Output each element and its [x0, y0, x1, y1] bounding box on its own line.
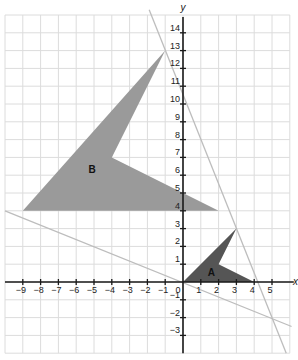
y-tick-label: 12 [170, 58, 180, 68]
y-tick-label: 2 [175, 236, 180, 246]
y-tick-label: 3 [175, 219, 180, 229]
y-tick-label: −1 [170, 290, 180, 300]
y-axis-label: y [180, 2, 187, 13]
x-tick-label: −5 [87, 285, 97, 295]
y-tick-label: 10 [170, 94, 180, 104]
y-tick-label: 8 [175, 130, 180, 140]
y-tick-label: 4 [175, 201, 180, 211]
x-tick-label: 5 [267, 285, 272, 295]
x-tick-label: −4 [105, 285, 115, 295]
shapes: BA [23, 51, 254, 282]
y-tick-label: 9 [175, 112, 180, 122]
x-tick-label: −2 [140, 285, 150, 295]
x-axis-label: x [292, 276, 298, 287]
shape-label-b: B [89, 164, 96, 175]
x-tick-label: 1 [196, 285, 201, 295]
y-tick-label: 14 [170, 23, 180, 33]
x-tick-label: −3 [122, 285, 132, 295]
x-tick-label: −8 [33, 285, 43, 295]
y-tick-label: 1 [175, 254, 180, 264]
y-tick-label: 7 [175, 147, 180, 157]
y-tick-label: 5 [175, 183, 180, 193]
x-tick-label: −9 [16, 285, 26, 295]
y-tick-label: 11 [171, 76, 180, 86]
shape-label-a: A [208, 267, 215, 278]
y-tick-label: −2 [170, 308, 180, 318]
y-tick-label: 6 [175, 165, 180, 175]
x-tick-label: −6 [69, 285, 79, 295]
x-tick-label: −7 [51, 285, 61, 295]
x-tick-label: −1 [158, 285, 168, 295]
x-tick-label: 2 [214, 285, 219, 295]
x-tick-label: 4 [250, 285, 255, 295]
x-tick-label: 3 [232, 285, 237, 295]
coordinate-plane: BA −9−8−7−6−5−4−3−2−10123451413121110987… [0, 0, 298, 360]
y-tick-label: 13 [170, 41, 180, 51]
y-tick-label: −3 [170, 325, 180, 335]
shape-b [23, 51, 219, 211]
